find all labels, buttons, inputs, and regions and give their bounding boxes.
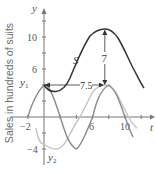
series-label-S: S xyxy=(73,54,79,66)
tick-label-neg4: −4 xyxy=(27,144,38,155)
x-axis-arrow-icon xyxy=(150,115,155,120)
tick-label-10: 10 xyxy=(27,32,37,43)
tick-label-6: 6 xyxy=(32,64,37,75)
annotation-7-5: 7.5 xyxy=(80,80,93,91)
series-label-y1: y1 xyxy=(19,76,29,90)
chart: y t 10 6 −4 −2 6 10 7.5 7 S y1 y2 xyxy=(0,0,156,169)
y-axis-name: y xyxy=(31,2,37,14)
tick-label-neg2: −2 xyxy=(20,121,31,132)
y-axis-arrow-icon xyxy=(42,8,47,14)
arrow-up-icon xyxy=(102,30,107,36)
annotation-7: 7 xyxy=(102,52,108,64)
series-S-line xyxy=(44,29,144,92)
series-label-y2: y2 xyxy=(47,151,57,165)
x-axis-name: t xyxy=(150,121,154,133)
arrow-down-icon xyxy=(102,80,107,85)
